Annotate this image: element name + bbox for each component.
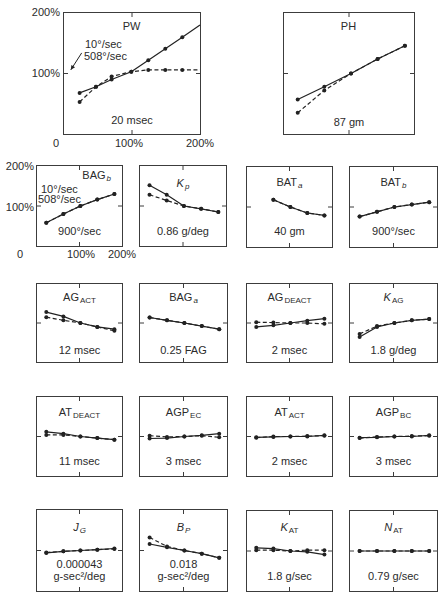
data-point <box>349 72 353 76</box>
value-label: 11 msec <box>37 455 122 467</box>
data-point <box>182 204 186 208</box>
x-tick-label-200: 200% <box>180 137 220 149</box>
series-line-dashed <box>360 202 430 216</box>
panel-n-at: NAT 0.79 g/sec <box>349 510 438 592</box>
value-label: 1.8 g/sec <box>247 570 332 582</box>
data-point <box>217 432 221 436</box>
data-point <box>376 57 380 61</box>
title-sub: P <box>185 526 190 535</box>
title-main: J <box>73 521 79 533</box>
data-point <box>296 111 300 115</box>
title-sub: AG <box>392 296 404 305</box>
value-label: 20 msec <box>64 114 200 126</box>
data-point <box>165 193 169 197</box>
legend-label-dashed: 508°/sec <box>38 193 81 205</box>
panel-title: ATDEACT <box>37 406 122 418</box>
panel-ag-act: AGACT 12 msec <box>36 283 123 363</box>
x-tick-label-200: 200% <box>102 248 142 260</box>
title-sub: AT <box>393 526 403 535</box>
value-label: 2 msec <box>247 455 332 467</box>
value-label: 12 msec <box>37 344 122 356</box>
title-sub: DEACT <box>284 296 311 305</box>
data-point <box>322 85 326 89</box>
panel-at-deact: ATDEACT 11 msec <box>36 396 123 477</box>
data-point <box>403 44 407 48</box>
data-point <box>165 435 169 439</box>
series-line-dashed <box>150 195 219 212</box>
data-point <box>163 68 167 72</box>
panel-title: BP <box>140 521 227 533</box>
title-sub: b <box>107 174 111 183</box>
data-point <box>288 549 292 553</box>
data-point <box>200 324 204 328</box>
sensitivity-figure: 200% 100% 0 100% 200% 200% 100% 0 100% 2… <box>0 0 447 598</box>
value-number: 0.018 <box>140 558 227 570</box>
data-point <box>288 205 292 209</box>
title-main: PH <box>341 20 356 32</box>
title-main: BAG <box>169 291 192 303</box>
panel-kp: Kp 0.86 g/deg <box>139 165 227 247</box>
data-point <box>95 548 99 552</box>
data-point <box>61 314 65 318</box>
data-point <box>78 549 82 553</box>
panel-bat-a: BATa 40 gm <box>246 166 333 248</box>
data-point <box>200 552 204 556</box>
data-point <box>427 549 431 553</box>
panel-title: BAGa <box>140 291 227 303</box>
data-point <box>61 549 65 553</box>
data-point <box>305 211 309 215</box>
data-point <box>163 47 167 51</box>
panel-title: BATa <box>247 176 332 188</box>
series-line-dashed <box>298 46 405 113</box>
data-point <box>305 321 309 325</box>
data-point <box>217 435 221 439</box>
data-point <box>180 35 184 39</box>
data-point <box>61 212 65 216</box>
data-point <box>182 321 186 325</box>
value-label: 900°/sec <box>37 225 122 237</box>
panel-title: KAG <box>350 291 437 303</box>
data-point <box>322 434 326 438</box>
data-point <box>182 435 186 439</box>
title-main: BAT <box>380 176 401 188</box>
panel-k-ag: KAG 1.8 g/deg <box>349 283 438 363</box>
panel-ag-deact: AGDEACT 2 msec <box>246 283 333 363</box>
data-point <box>95 436 99 440</box>
data-point <box>271 548 275 552</box>
data-point <box>410 434 414 438</box>
y-tick-label-100: 100% <box>0 201 34 213</box>
title-sub: ACT <box>80 296 96 305</box>
panel-b-p: BP 0.018 g-sec²/deg <box>139 509 228 592</box>
series-line-dashed <box>150 538 220 558</box>
title-main: PW <box>123 20 141 32</box>
value-label: 3 msec <box>350 455 437 467</box>
title-main: AG <box>63 291 79 303</box>
series-line-dashed <box>273 200 324 216</box>
value-number: 0.000043 <box>37 558 122 570</box>
value-label: 3 msec <box>140 455 227 467</box>
data-point <box>410 318 414 322</box>
data-point <box>322 317 326 321</box>
data-point <box>78 100 82 104</box>
panel-title: AGACT <box>37 291 122 303</box>
data-point <box>322 553 326 557</box>
data-point <box>375 435 379 439</box>
data-point <box>296 98 300 102</box>
title-sub: p <box>185 182 189 191</box>
data-point <box>271 435 275 439</box>
data-point <box>148 193 152 197</box>
title-main: K <box>177 177 184 189</box>
title-main: K <box>281 521 288 533</box>
data-point <box>254 548 258 552</box>
value-label: 0.79 g/sec <box>350 570 437 582</box>
title-sub: a <box>193 296 197 305</box>
title-main: AGP <box>166 406 189 418</box>
legend-label-solid: 10°/sec <box>85 38 122 50</box>
panel-title: AGDEACT <box>247 291 332 303</box>
title-sub: BC <box>400 411 411 420</box>
data-point <box>375 210 379 214</box>
data-point <box>199 207 203 211</box>
data-point <box>216 210 220 214</box>
data-point <box>44 315 48 319</box>
data-point <box>94 85 98 89</box>
